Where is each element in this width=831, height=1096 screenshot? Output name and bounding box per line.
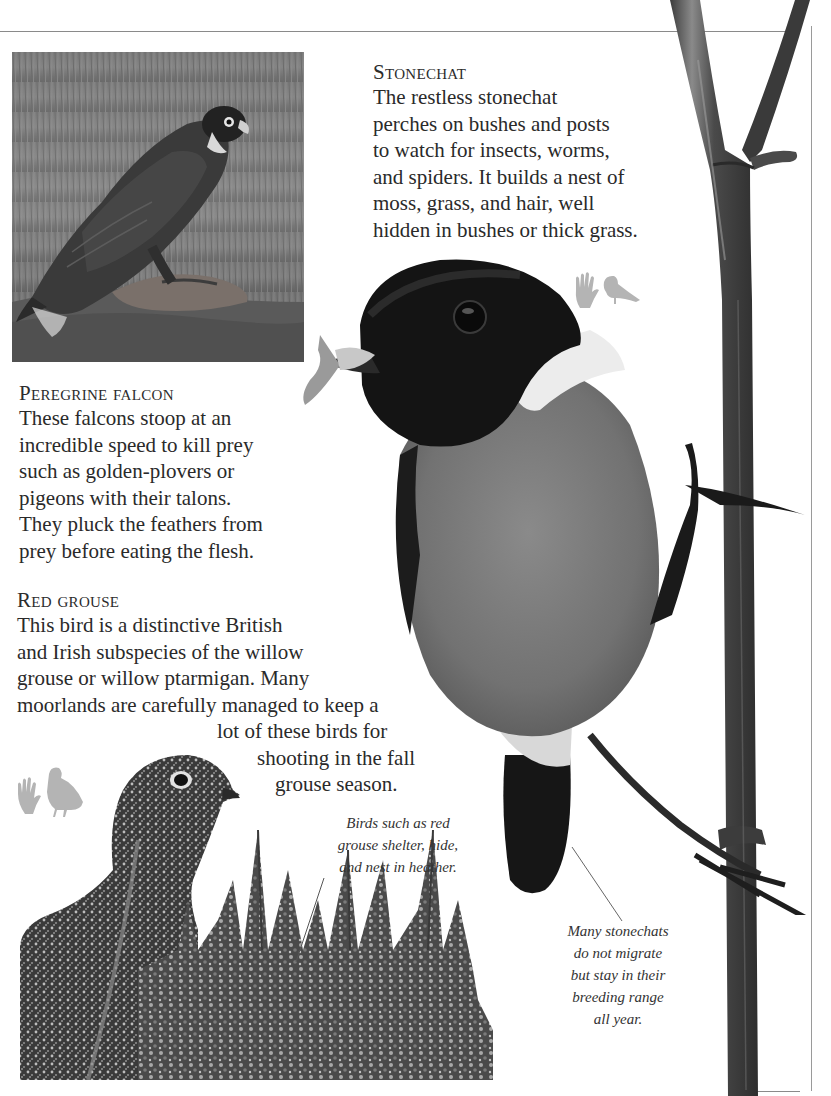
caption-line: grouse shelter, hide, [318,834,478,856]
text-line: moorlands are carefully managed to keep … [17,692,437,719]
stonechat-heading: Stonechat [373,60,638,84]
text-line: to watch for insects, worms, [373,137,638,164]
text-line: pigeons with their talons. [19,485,263,512]
text-line: hidden in bushes or thick grass. [373,217,638,244]
text-line: such as golden-plovers or [19,458,263,485]
stonechat-section: Stonechat The restless stonechat perches… [373,60,638,243]
caption-line: and nest in heather. [318,856,478,878]
text-line: This bird is a distinctive British [17,612,437,639]
hand-and-small-bird-scale-icon [572,270,642,310]
peregrine-falcon-photo [12,52,304,362]
text-line: The restless stonechat [373,84,638,111]
peregrine-falcon-section: Peregrine falcon These falcons stoop at … [19,381,263,564]
text-line: incredible speed to kill prey [19,432,263,459]
text-line: perches on bushes and posts [373,111,638,138]
caption-line: but stay in their [548,964,688,986]
text-line: These falcons stoop at an [19,405,263,432]
grouse-caption-leader-line [290,876,330,966]
text-line: lot of these birds for [17,718,437,745]
caption-line: Birds such as red [318,812,478,834]
caption-line: breeding range [548,986,688,1008]
grouse-heather-caption: Birds such as red grouse shelter, hide, … [318,812,478,878]
red-grouse-in-heather-photo [18,750,493,1080]
stonechat-migrate-caption: Many stonechats do not migrate but stay … [548,920,688,1030]
stonechat-description: The restless stonechat perches on bushes… [373,84,638,243]
text-line: and spiders. It builds a nest of [373,164,638,191]
text-line: and Irish subspecies of the willow [17,639,437,666]
text-line: They pluck the feathers from [19,511,263,538]
peregrine-falcon-heading: Peregrine falcon [19,381,263,405]
text-line: prey before eating the flesh. [19,538,263,565]
caption-line: all year. [548,1008,688,1030]
text-line: grouse or willow ptarmigan. Many [17,665,437,692]
red-grouse-heading: Red grouse [17,588,437,612]
text-line: moss, grass, and hair, well [373,190,638,217]
peregrine-falcon-description: These falcons stoop at an incredible spe… [19,405,263,564]
caption-line: do not migrate [548,942,688,964]
stonechat-caption-leader-line [570,845,630,925]
